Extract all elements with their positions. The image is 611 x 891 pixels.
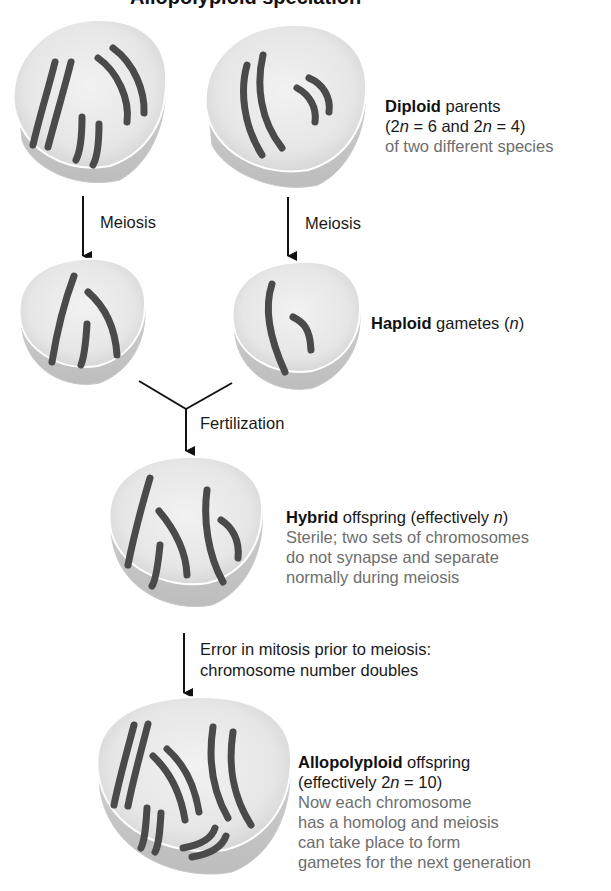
- mitosis-error-label-line2: chromosome number doubles: [200, 660, 418, 680]
- caption-hybrid-offspring: Hybrid offspring (effectively n) Sterile…: [286, 507, 529, 587]
- caption-hybrid-rest: offspring (effectively: [338, 508, 493, 526]
- caption-haploid-term: Haploid: [371, 314, 432, 332]
- cell-parent-species-a: [14, 20, 166, 183]
- caption-allopolyploid-rest: offspring: [403, 753, 471, 771]
- caption-haploid-n: n: [509, 314, 518, 332]
- meiosis-label-left: Meiosis: [100, 212, 156, 232]
- caption-allopolyploid-offspring: Allopolyploid offspring (effectively 2n …: [298, 752, 531, 872]
- cell-hybrid: [109, 457, 262, 607]
- caption-hybrid-line4: normally during meiosis: [286, 567, 529, 587]
- caption-diploid-n2: n: [483, 117, 492, 135]
- caption-diploid-rest: parents: [441, 97, 501, 115]
- caption-allopolyploid-line3: Now each chromosome: [298, 792, 531, 812]
- caption-allopolyploid-n: n: [390, 773, 399, 791]
- caption-allopolyploid-line5: can take place to form: [298, 832, 531, 852]
- meiosis-label-right: Meiosis: [305, 213, 361, 233]
- caption-hybrid-term: Hybrid: [286, 508, 338, 526]
- caption-diploid-parents: Diploid parents (2n = 6 and 2n = 4) of t…: [385, 96, 553, 156]
- fertilization-connector: [139, 381, 232, 409]
- caption-hybrid-line2: Sterile; two sets of chromosomes: [286, 527, 529, 547]
- caption-haploid-gametes: Haploid gametes (n): [371, 313, 524, 333]
- caption-diploid-count-pre: (2: [385, 117, 400, 135]
- cell-parent-species-b: [206, 25, 366, 187]
- caption-diploid-count-mid: = 6 and 2: [409, 117, 483, 135]
- caption-diploid-n1: n: [400, 117, 409, 135]
- caption-diploid-term: Diploid: [385, 97, 441, 115]
- fertilization-label: Fertilization: [200, 413, 284, 433]
- caption-haploid-rest: gametes (: [432, 314, 510, 332]
- caption-diploid-count-post: = 4): [492, 117, 525, 135]
- caption-haploid-close: ): [519, 314, 525, 332]
- caption-hybrid-line3: do not synapse and separate: [286, 547, 529, 567]
- cell-gamete-a: [20, 259, 145, 385]
- caption-allopolyploid-count-pre: (effectively 2: [298, 773, 390, 791]
- caption-hybrid-n: n: [494, 508, 503, 526]
- caption-allopolyploid-line4: has a homolog and meiosis: [298, 812, 531, 832]
- cell-allopolyploid: [97, 697, 291, 874]
- caption-allopolyploid-count-post: = 10): [400, 773, 443, 791]
- cell-gamete-b: [233, 262, 360, 390]
- mitosis-error-label-line1: Error in mitosis prior to meiosis:: [200, 639, 431, 659]
- caption-diploid-species: of two different species: [385, 136, 553, 156]
- caption-allopolyploid-term: Allopolyploid: [298, 753, 403, 771]
- caption-hybrid-close: ): [503, 508, 509, 526]
- caption-allopolyploid-line6: gametes for the next generation: [298, 852, 531, 872]
